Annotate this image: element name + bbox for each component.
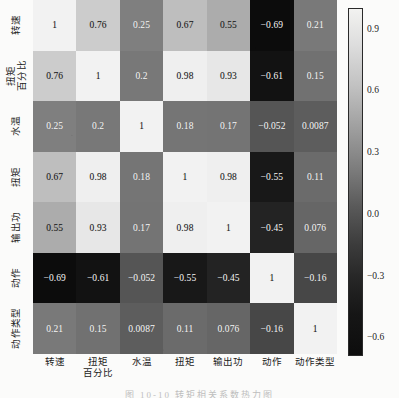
heatmap-cell-value: 0.18: [133, 172, 150, 182]
heatmap-grid: 10.760.250.670.55−0.690.210.7610.20.980.…: [33, 0, 337, 354]
heatmap-cell: 0.0087: [120, 303, 163, 354]
heatmap-cell: 0.67: [33, 152, 76, 203]
heatmap-cell-value: 0.25: [133, 20, 150, 30]
heatmap-cell: −0.45: [207, 253, 250, 304]
heatmap-cell: −0.55: [163, 253, 206, 304]
y-tick-label-2: 水温: [0, 101, 33, 152]
heatmap-cell-value: 1: [139, 121, 144, 131]
heatmap-cell: 1: [250, 253, 293, 304]
y-tick-label-text: 水温: [11, 116, 22, 136]
x-tick-label-6: 动作类型: [294, 356, 337, 386]
heatmap-cell: 0.15: [294, 51, 337, 102]
y-tick-label-6: 动作类型: [0, 303, 33, 354]
heatmap-cell-value: 0.98: [220, 172, 237, 182]
heatmap-cell-value: −0.61: [87, 273, 109, 283]
heatmap-cell-value: 0.17: [133, 223, 150, 233]
heatmap-cell: 0.15: [76, 303, 119, 354]
heatmap-cell-value: 0.11: [177, 324, 194, 334]
heatmap-cell: 0.76: [33, 51, 76, 102]
heatmap-cell: 0.98: [76, 152, 119, 203]
heatmap-cell-value: 0.55: [220, 20, 237, 30]
colorbar-tick-label-1: 0.6: [367, 85, 379, 95]
figure-caption: 图 10-10 转矩相关系数热力图: [0, 388, 399, 398]
heatmap-cell-value: 0.2: [92, 121, 104, 131]
heatmap-cell: 1: [294, 303, 337, 354]
y-tick-label-text: 转速: [11, 15, 22, 35]
heatmap-cell-value: −0.45: [217, 273, 239, 283]
heatmap-cell: 0.93: [207, 51, 250, 102]
y-tick-label-text: 动作: [11, 268, 22, 288]
heatmap-cell: −0.61: [250, 51, 293, 102]
colorbar-tick-label-4: −0.3: [367, 271, 384, 281]
y-tick-label-text: 输出功: [11, 212, 22, 243]
heatmap-cell: −0.55: [250, 152, 293, 203]
heatmap-cell-value: −0.052: [128, 273, 155, 283]
heatmap-cell: 0.2: [120, 51, 163, 102]
heatmap-cell: 0.21: [294, 0, 337, 51]
heatmap-cell: 0.55: [207, 0, 250, 51]
heatmap-cell-value: 0.76: [46, 71, 63, 81]
heatmap-cell: 0.2: [76, 101, 119, 152]
heatmap-cell: 0.076: [207, 303, 250, 354]
colorbar-tick-label-0: 0.9: [367, 24, 379, 34]
y-tick-label-text: 扭矩: [11, 167, 22, 187]
heatmap-cell-value: 0.76: [90, 20, 107, 30]
heatmap-cell: 1: [33, 0, 76, 51]
y-tick-label-text: 动作类型: [11, 308, 22, 349]
x-tick-label-5: 动作: [250, 356, 293, 386]
heatmap-cell: −0.052: [250, 101, 293, 152]
heatmap-cell: −0.69: [33, 253, 76, 304]
heatmap-cell-value: −0.69: [43, 273, 65, 283]
heatmap-cell: 0.67: [163, 0, 206, 51]
heatmap-cell-value: −0.16: [304, 273, 326, 283]
heatmap-cell: 1: [163, 152, 206, 203]
colorbar-legend: 0.90.60.30.0−0.3−0.6: [348, 8, 399, 356]
heatmap-cell: 0.18: [163, 101, 206, 152]
heatmap-cell: 0.98: [207, 152, 250, 203]
heatmap-cell-value: 1: [226, 223, 231, 233]
heatmap-cell-value: 0.67: [46, 172, 63, 182]
heatmap-cell: 0.076: [294, 202, 337, 253]
colorbar-tick-label-3: 0.0: [367, 209, 379, 219]
heatmap-cell-value: −0.61: [261, 71, 283, 81]
heatmap-cell-value: 0.98: [176, 223, 193, 233]
heatmap-cell-value: 0.98: [176, 71, 193, 81]
heatmap-cell-value: 0.2: [135, 71, 147, 81]
y-tick-label-5: 动作: [0, 253, 33, 304]
y-tick-label-4: 输出功: [0, 202, 33, 253]
heatmap-cell-value: 0.0087: [128, 324, 155, 334]
heatmap-cell: −0.45: [250, 202, 293, 253]
correlation-heatmap-figure: 转速扭矩百分比水温扭矩输出功动作动作类型 10.760.250.670.55−0…: [0, 0, 399, 398]
heatmap-cell: −0.16: [250, 303, 293, 354]
heatmap-cell-value: −0.45: [261, 223, 283, 233]
colorbar-tick-label-5: −0.6: [367, 332, 384, 342]
heatmap-cell-value: 0.17: [220, 121, 237, 131]
heatmap-cell-value: 1: [183, 172, 188, 182]
heatmap-cell: 0.21: [33, 303, 76, 354]
heatmap-cell-value: 0.67: [176, 20, 193, 30]
heatmap-cell-value: 0.21: [307, 20, 324, 30]
heatmap-cell-value: 0.93: [90, 223, 107, 233]
heatmap-cell: 0.17: [120, 202, 163, 253]
heatmap-cell: −0.61: [76, 253, 119, 304]
x-tick-label-1: 扭矩百分比: [76, 356, 119, 386]
heatmap-cell-value: −0.55: [261, 172, 283, 182]
heatmap-cell: 0.98: [163, 202, 206, 253]
heatmap-cell: 0.93: [76, 202, 119, 253]
y-axis-tick-labels: 转速扭矩百分比水温扭矩输出功动作动作类型: [0, 0, 33, 354]
heatmap-cell: −0.69: [250, 0, 293, 51]
x-tick-label-0: 转速: [33, 356, 76, 386]
heatmap-cell-value: −0.052: [258, 121, 285, 131]
heatmap-cell-value: 0.0087: [302, 121, 329, 131]
heatmap-cell: 1: [207, 202, 250, 253]
x-axis-tick-labels: 转速扭矩百分比水温扭矩输出功动作动作类型: [33, 356, 337, 386]
heatmap-cell: 0.98: [163, 51, 206, 102]
x-tick-label-2: 水温: [120, 356, 163, 386]
heatmap-cell-value: 1: [269, 273, 274, 283]
heatmap-cell: 0.11: [163, 303, 206, 354]
x-tick-label-4: 输出功: [207, 356, 250, 386]
heatmap-cell: −0.052: [120, 253, 163, 304]
heatmap-cell: 1: [76, 51, 119, 102]
heatmap-cell-value: −0.69: [261, 20, 283, 30]
heatmap-cell: −0.16: [294, 253, 337, 304]
